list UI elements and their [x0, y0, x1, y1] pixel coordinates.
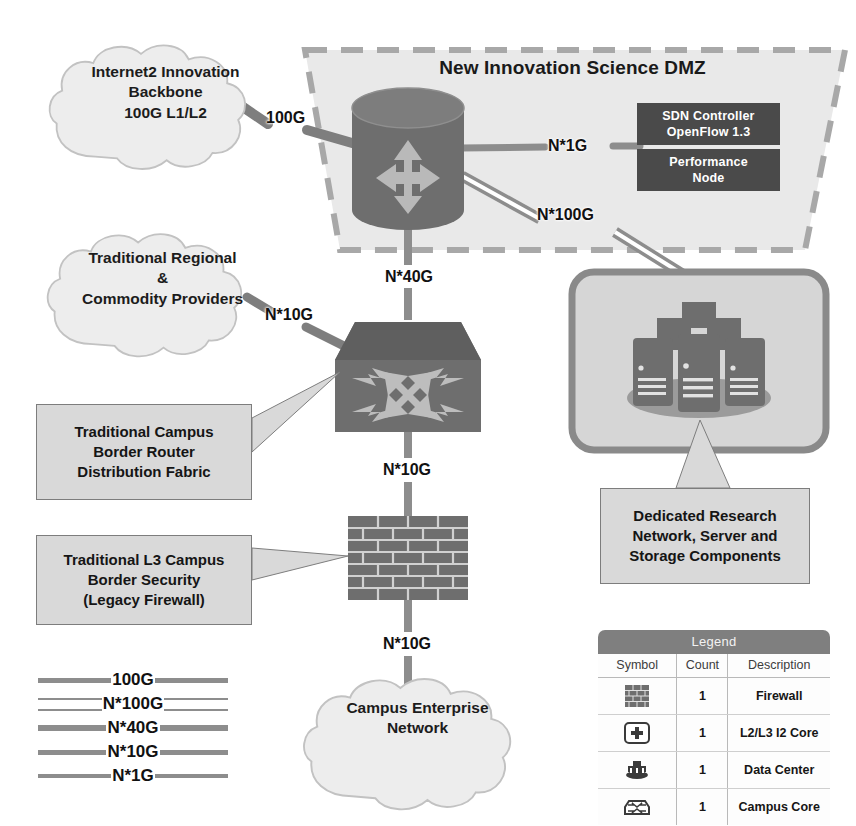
- firewall-brick-icon: [598, 685, 676, 707]
- cloud-campus-line2: Network: [310, 718, 525, 738]
- line-sample-n100g-left: [38, 698, 102, 711]
- legend-symbol-cell: [598, 678, 677, 715]
- campus-core-switch-icon: [335, 322, 481, 432]
- legend-description-cell: Firewall: [728, 678, 830, 715]
- legend-description-cell: Data Center: [728, 752, 830, 789]
- line-legend-row: 100G: [38, 668, 228, 692]
- legend-header-row: Symbol Count Description: [598, 654, 830, 678]
- callout-research-line1: Dedicated Research: [629, 506, 781, 526]
- line-sample-100g-left: [38, 678, 111, 683]
- legend-description-cell: L2/L3 I2 Core: [728, 715, 830, 752]
- callout-research-line2: Network, Server and: [629, 526, 781, 546]
- legend-col-count: Count: [677, 654, 728, 678]
- legend-symbol-cell: [598, 715, 677, 752]
- data-center-icon: [598, 759, 676, 781]
- cloud-internet2-line3: 100G L1/L2: [58, 103, 273, 123]
- link-label-core-campuscore: N*40G: [385, 268, 433, 286]
- firewall-icon: [348, 516, 468, 600]
- pointer-legacy-firewall: [252, 548, 348, 580]
- line-legend-label-n1g: N*1G: [111, 766, 155, 786]
- line-legend-row: N*100G: [38, 692, 228, 716]
- line-legend-label-100g: 100G: [111, 670, 155, 690]
- legend-count-cell: 1: [677, 789, 728, 826]
- line-legend-row: N*1G: [38, 764, 228, 788]
- cloud-regional-line3: Commodity Providers: [55, 289, 270, 309]
- line-legend-row: N*10G: [38, 740, 228, 764]
- legend-col-description: Description: [728, 654, 830, 678]
- performance-node-line1: Performance: [669, 154, 748, 170]
- sdn-controller-node[interactable]: SDN Controller OpenFlow 1.3: [637, 103, 780, 145]
- cloud-regional-label: Traditional Regional & Commodity Provide…: [55, 248, 270, 309]
- cloud-internet2-line2: Backbone: [58, 82, 273, 102]
- pointer-border-router: [252, 372, 340, 452]
- cloud-campus-enterprise-label: Campus Enterprise Network: [310, 698, 525, 739]
- legend-count-cell: 1: [677, 678, 728, 715]
- table-row: 1 Firewall: [598, 678, 830, 715]
- sdn-controller-line1: SDN Controller: [662, 108, 754, 124]
- link-label-firewall-enterprise: N*10G: [383, 635, 431, 653]
- callout-research-network: Dedicated Research Network, Server and S…: [600, 488, 810, 584]
- callout-border-router-line2: Border Router: [74, 442, 213, 462]
- line-sample-n40g-right: [160, 725, 228, 731]
- link-label-core-sdn: N*1G: [548, 137, 587, 155]
- sdn-controller-line2: OpenFlow 1.3: [662, 124, 754, 140]
- callout-legacy-firewall: Traditional L3 Campus Border Security (L…: [36, 535, 252, 625]
- line-sample-n10g-left: [38, 750, 106, 755]
- line-legend-label-n40g: N*40G: [106, 718, 159, 738]
- table-row: 1 Data Center: [598, 752, 830, 789]
- cloud-internet2-line1: Internet2 Innovation: [58, 62, 273, 82]
- table-row: 1 Campus Core: [598, 789, 830, 826]
- router-core-icon: [598, 722, 676, 744]
- link-label-core-datacenter: N*100G: [537, 206, 594, 224]
- link-label-campuscore-firewall: N*10G: [383, 461, 431, 479]
- dmz-title: New Innovation Science DMZ: [300, 57, 845, 79]
- line-legend-row: N*40G: [38, 716, 228, 740]
- callout-border-router-line3: Distribution Fabric: [74, 462, 213, 482]
- link-label-internet2-core: 100G: [266, 109, 305, 127]
- legend-count-cell: 1: [677, 752, 728, 789]
- legend-col-symbol: Symbol: [598, 654, 677, 678]
- cloud-regional-line2: &: [55, 268, 270, 288]
- cloud-regional-line1: Traditional Regional: [55, 248, 270, 268]
- legend-table: Symbol Count Description: [598, 654, 830, 825]
- legend-symbol-cell: [598, 789, 677, 826]
- line-sample-n1g-left: [38, 774, 111, 778]
- legend-description-cell: Campus Core: [728, 789, 830, 826]
- callout-legacy-fw-line3: (Legacy Firewall): [64, 590, 225, 610]
- performance-node[interactable]: Performance Node: [637, 149, 780, 191]
- callout-border-router-line1: Traditional Campus: [74, 422, 213, 442]
- legend-symbol-cell: [598, 752, 677, 789]
- callout-legacy-fw-line2: Border Security: [64, 570, 225, 590]
- legend-count-cell: 1: [677, 715, 728, 752]
- legend-title: Legend: [598, 630, 830, 654]
- symbol-legend: Legend Symbol Count Description: [598, 630, 830, 825]
- cloud-campus-line1: Campus Enterprise: [310, 698, 525, 718]
- line-legend-label-n10g: N*10G: [106, 742, 159, 762]
- line-type-legend: 100G N*100G N*40G N*10G N*1G: [38, 668, 228, 788]
- line-sample-n40g-left: [38, 725, 106, 731]
- line-sample-n1g-right: [155, 774, 228, 778]
- line-sample-100g-right: [155, 678, 228, 683]
- callout-research-line3: Storage Components: [629, 546, 781, 566]
- line-sample-n10g-right: [160, 750, 228, 755]
- callout-legacy-fw-line1: Traditional L3 Campus: [64, 550, 225, 570]
- line-legend-label-n100g: N*100G: [102, 694, 164, 714]
- campus-core-icon: [598, 797, 676, 817]
- performance-node-line2: Node: [669, 170, 748, 186]
- callout-border-router: Traditional Campus Border Router Distrib…: [36, 404, 252, 500]
- link-label-regional-campuscore: N*10G: [265, 306, 313, 324]
- table-row: 1 L2/L3 I2 Core: [598, 715, 830, 752]
- line-sample-n100g-right: [164, 698, 228, 711]
- cloud-internet2-label: Internet2 Innovation Backbone 100G L1/L2: [58, 62, 273, 123]
